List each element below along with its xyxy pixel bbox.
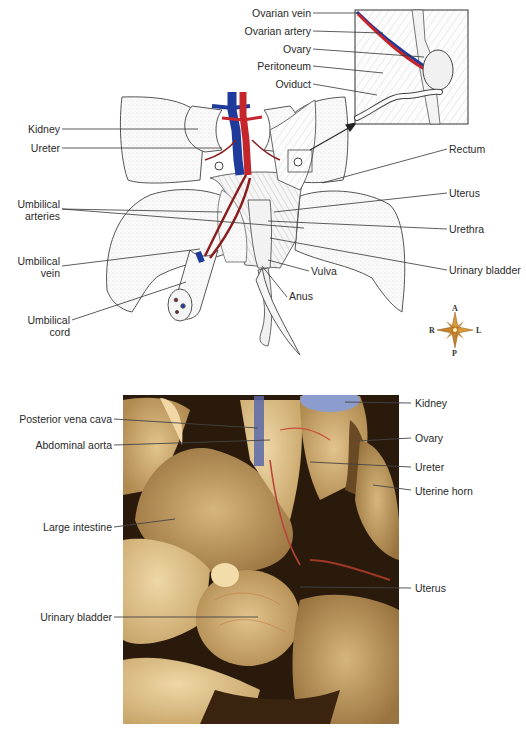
photo-label-ureter: Ureter xyxy=(415,461,444,473)
photo-label-uterine-horn: Uterine horn xyxy=(415,485,473,497)
photo-label-urinary-bladder: Urinary bladder xyxy=(0,611,112,623)
photo-label-kidney: Kidney xyxy=(415,397,447,409)
photo-label-large-intestine: Large intestine xyxy=(0,521,112,533)
photo-label-posterior-vena-cava: Posterior vena cava xyxy=(0,413,112,425)
photo-label-abdominal-aorta: Abdominal aorta xyxy=(0,439,112,451)
photo-label-uterus: Uterus xyxy=(415,582,446,594)
photo-label-ovary: Ovary xyxy=(415,432,443,444)
dissection-photo xyxy=(0,0,526,741)
